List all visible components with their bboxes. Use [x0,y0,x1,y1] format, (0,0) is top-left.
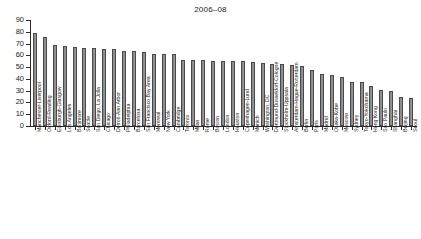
x-tick-label: Manchester-Liverpool [37,82,42,132]
chart-title: 2006–08 [0,5,421,14]
y-tick-label: 30 [0,87,24,95]
x-tick-label: Barcelona [136,109,141,132]
y-axis [0,0,30,239]
x-tick-label: Houston [235,113,240,132]
y-tick-label: 10 [0,110,24,118]
y-tick-label: 0 [0,122,24,130]
x-tick-label: Tokyo-Yokohama [364,92,369,132]
bar[interactable] [191,60,195,126]
x-tick-label: Baltimore [77,110,82,132]
x-tick-label: Montreal [156,112,161,132]
x-tick-label: Moscow [344,113,349,132]
x-tick-label: Sao Paulo [383,108,388,132]
x-tick-label: Chicago [106,113,111,132]
y-tick-label: 50 [0,63,24,71]
x-tick-label: Berlin [304,119,309,132]
x-tick-label: Stockholm-Uppsala [284,87,289,132]
x-tick-label: New York [166,110,171,132]
x-tick-label: Milan [195,120,200,132]
y-tick-label: 70 [0,40,24,48]
x-tick-label: Toronto [185,115,190,132]
x-tick-label: Seoul [413,119,418,132]
x-tick-label: Philadelphia [126,104,131,132]
x-tick-label: Edinburgh-Glasgow [57,86,62,132]
bar[interactable] [201,60,205,126]
x-tick-label: Shanghai [393,110,398,132]
bar-chart: 2006–08 0102030405060708090 Manchester-L… [0,0,421,239]
x-tick-label: San Diego, La Jolla [96,87,101,132]
bar[interactable] [310,70,314,126]
y-tick-label: 20 [0,98,24,106]
plot-area [30,20,416,126]
x-tick-label: Los Angeles [67,104,72,132]
x-tick-label: Seattle [86,116,91,132]
x-tick-label: Copenhagen-Lund [245,89,250,132]
y-tick-label: 40 [0,75,24,83]
x-tick-label: Madrid [324,116,329,132]
y-tick-label: 80 [0,28,24,36]
bar[interactable] [300,66,304,126]
x-tick-label: London [225,115,230,132]
x-tick-label: Dortmund-Düsseldorf-Cologne [274,62,279,132]
x-tick-label: Sydney [354,115,359,132]
bar[interactable] [82,48,86,126]
x-tick-label: Munich [255,115,260,132]
x-tick-label: San Francisco Bay Area [146,76,151,132]
x-tick-label: Cambridge [176,107,181,132]
x-tick-label: Osaka-Kobe [334,103,339,132]
x-tick-label: Paris [314,120,319,132]
x-tick-label: Detroit-Ann Arbor [116,92,121,132]
x-tick-label: Oxford-Reading [47,95,52,132]
x-tick-label: Hong Kong [373,106,378,132]
x-tick-label: Rome [205,118,210,132]
x-tick-label: Amsterdam-Hague-Rotterdam [294,63,299,132]
x-tick-label: Boston [215,116,220,132]
y-tick-mark [26,126,30,127]
y-tick-label: 60 [0,51,24,59]
y-tick-label: 90 [0,16,24,24]
x-tick-label: Washington, DC [265,94,270,132]
x-tick-label: Beijing [403,116,408,132]
